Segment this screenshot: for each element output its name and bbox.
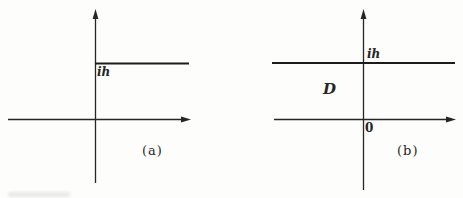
- panel-b-axes: [272, 9, 456, 190]
- ih-label-b: ih: [367, 48, 380, 60]
- caption-b: (b): [397, 144, 418, 157]
- right-arrowhead-a: [181, 117, 191, 123]
- right-arrowhead-b: [446, 117, 456, 123]
- ih-label-a: ih: [97, 66, 110, 78]
- domain-label-b: D: [323, 82, 336, 97]
- up-arrowhead-b: [361, 9, 367, 19]
- panel-a-axes: [8, 9, 191, 183]
- figure-container: ih (a) ih D 0 (b): [0, 0, 463, 198]
- origin-label-b: 0: [365, 122, 373, 134]
- cropped-caption-artifact: [8, 192, 70, 197]
- up-arrowhead-a: [93, 9, 99, 19]
- caption-a: (a): [142, 144, 163, 157]
- diagram-canvas: [0, 0, 463, 198]
